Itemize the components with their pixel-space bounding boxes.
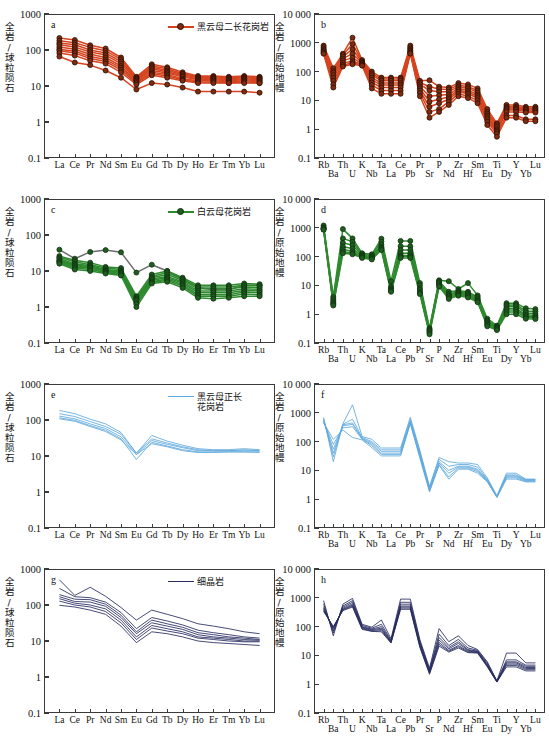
series-line <box>324 604 536 682</box>
panel-letter-f: f <box>321 389 324 400</box>
x-tick-label-h-Zr: Zr <box>454 715 463 725</box>
series-marker <box>257 78 262 83</box>
series-line <box>59 259 259 299</box>
y-tick-b-1: 1000 <box>278 37 311 48</box>
series-marker <box>398 77 403 82</box>
series-marker <box>523 104 528 109</box>
x-tickmark-g-3 <box>106 709 107 713</box>
series-marker <box>149 65 154 70</box>
series-marker <box>134 75 139 80</box>
x-tick-label-c-Gd: Gd <box>146 345 158 355</box>
y-tick-h-3: 10 <box>278 650 311 661</box>
series-marker <box>257 282 262 287</box>
series-marker <box>369 252 374 257</box>
series-marker <box>533 315 538 320</box>
series-marker <box>369 86 374 91</box>
series-marker <box>103 68 108 73</box>
series-marker <box>446 85 451 90</box>
series-marker <box>226 287 231 292</box>
series-marker <box>417 91 422 96</box>
x-tick-label-h-Pb: Pb <box>405 724 415 734</box>
y-tick-h-2: 100 <box>278 621 311 632</box>
x-tickmark-c-3 <box>106 339 107 343</box>
series-marker <box>437 107 442 112</box>
y-tick-d-4: 1 <box>278 309 311 320</box>
x-tick-label-b-Pb: Pb <box>405 169 415 179</box>
y-axis-label-c: 全岩/球粒陨石 <box>4 207 14 335</box>
series-marker <box>398 78 403 83</box>
series-marker <box>398 253 403 258</box>
series-marker <box>533 109 538 114</box>
series-marker <box>103 266 108 271</box>
series-marker <box>226 283 231 288</box>
series-marker <box>369 83 374 88</box>
series-marker <box>533 106 538 111</box>
x-tickmark-c-13 <box>260 339 261 343</box>
series-marker <box>149 73 154 78</box>
x-tickmark-e-7 <box>167 524 168 528</box>
series-line <box>324 228 536 330</box>
series-marker <box>242 286 247 291</box>
series-marker <box>485 319 490 324</box>
y-tick-f-1: 1000 <box>278 407 311 418</box>
series-marker <box>417 82 422 87</box>
series-line <box>324 229 536 332</box>
series-marker <box>446 92 451 97</box>
x-tick-label-b-Hf: Hf <box>463 169 473 179</box>
x-tick-label-f-Nb: Nb <box>366 539 378 549</box>
x-tickmark-g-0 <box>59 709 60 713</box>
series-marker <box>485 117 490 122</box>
series-marker <box>196 290 201 295</box>
series-marker <box>408 51 413 56</box>
x-tick-label-b-Th: Th <box>338 160 349 170</box>
series-marker <box>437 86 442 91</box>
series-marker <box>446 279 451 284</box>
series-marker <box>437 283 442 288</box>
x-tick-label-f-Sm: Sm <box>471 530 484 540</box>
series-marker <box>165 66 170 71</box>
series-marker <box>485 321 490 326</box>
series-marker <box>226 75 231 80</box>
x-tickmark-d-5 <box>372 339 373 343</box>
series-marker <box>389 88 394 93</box>
series-marker <box>514 304 519 309</box>
series-marker <box>72 263 77 268</box>
y-tick-c-0: 1000 <box>8 194 41 205</box>
series-marker <box>72 45 77 50</box>
x-tick-label-h-Sr: Sr <box>425 724 433 734</box>
series-marker <box>466 290 471 295</box>
x-tick-label-b-La: La <box>386 169 396 179</box>
series-marker <box>242 74 247 79</box>
series-marker <box>180 74 185 79</box>
series-marker <box>494 327 499 332</box>
y-tick-c-3: 1 <box>8 302 41 313</box>
series-line <box>59 263 259 304</box>
series-marker <box>211 78 216 83</box>
series-marker <box>360 251 365 256</box>
x-tickmark-b-2 <box>343 154 344 158</box>
series-marker <box>360 255 365 260</box>
x-tick-label-d-Nb: Nb <box>366 354 378 364</box>
series-marker <box>408 43 413 48</box>
y-tick-e-3: 1 <box>8 487 41 498</box>
series-marker <box>398 85 403 90</box>
panel-letter-b: b <box>321 19 326 30</box>
series-marker <box>119 270 124 275</box>
x-tickmark-d-8 <box>401 339 402 343</box>
series-marker <box>523 311 528 316</box>
x-tick-label-b-Zr: Zr <box>454 160 463 170</box>
x-tickmark-a-0 <box>59 154 60 158</box>
x-tickmark-a-3 <box>106 154 107 158</box>
series-marker <box>340 251 345 256</box>
series-marker <box>88 56 93 61</box>
series-marker <box>485 111 490 116</box>
series-marker <box>417 84 422 89</box>
x-tick-label-h-Ta: Ta <box>377 715 386 725</box>
y-tick-e-1: 100 <box>8 415 41 426</box>
x-tick-label-b-P: P <box>436 160 441 170</box>
x-tickmark-b-20 <box>516 154 517 158</box>
y-tick-f-5: 0.1 <box>278 523 311 534</box>
x-tickmark-a-9 <box>198 154 199 158</box>
x-tick-label-h-U: U <box>349 724 356 734</box>
series-marker <box>180 279 185 284</box>
